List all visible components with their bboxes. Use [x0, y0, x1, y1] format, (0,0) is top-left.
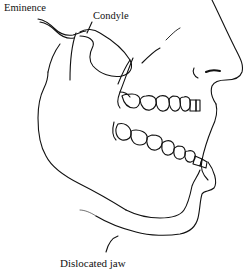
- ear-contour: [48, 44, 60, 72]
- maxilla: [118, 58, 133, 108]
- facial-profile: [142, 0, 243, 180]
- lower-teeth: [116, 123, 207, 168]
- figure-caption: Dislocated jaw: [60, 258, 126, 269]
- condyle: [70, 29, 132, 80]
- articular-eminence: [38, 19, 86, 38]
- condyle-label: Condyle: [93, 11, 129, 22]
- eminence-label: Eminence: [4, 3, 46, 14]
- upper-teeth: [120, 92, 200, 111]
- condyle-leader-line: [87, 22, 92, 33]
